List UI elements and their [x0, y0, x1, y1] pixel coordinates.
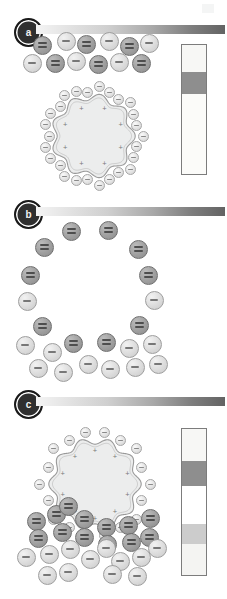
minus-icon: [62, 176, 67, 177]
free-monovalent-anion: [143, 335, 162, 354]
equals-icon: [145, 534, 154, 539]
minus-icon: [97, 185, 102, 186]
minus-icon: [58, 106, 63, 107]
minus-icon: [145, 42, 153, 44]
vesicle-positive-charge: +: [79, 104, 84, 113]
bound-monovalent-anion: [131, 120, 142, 131]
minus-icon: [134, 125, 139, 126]
minus-icon: [43, 574, 51, 576]
minus-icon: [97, 86, 102, 87]
minus-icon: [43, 124, 48, 125]
free-monovalent-anion: [140, 34, 159, 53]
free-monovalent-anion: [59, 563, 78, 582]
panel-a-cationic-vesicle: ++++++++: [38, 84, 148, 188]
free-monovalent-anion: [18, 292, 37, 311]
minus-icon: [134, 146, 139, 147]
minus-icon: [23, 300, 31, 302]
minus-icon: [47, 136, 52, 137]
minus-icon: [85, 179, 90, 180]
minus-icon: [107, 179, 112, 180]
free-monovalent-anion: [128, 567, 147, 586]
equals-icon: [40, 244, 49, 249]
minus-icon: [45, 553, 53, 555]
free-divalent-anion: [33, 317, 52, 336]
minus-icon: [137, 556, 145, 558]
minus-icon: [107, 92, 112, 93]
equals-icon: [69, 340, 78, 345]
panel-a: a ++++++++: [0, 0, 227, 199]
minus-icon: [128, 102, 133, 103]
free-divalent-anion: [33, 36, 52, 55]
equals-icon: [64, 503, 73, 508]
equals-icon: [94, 61, 103, 66]
equals-icon: [38, 323, 47, 328]
bound-monovalent-anion: [55, 160, 66, 171]
free-divalent-anion: [97, 333, 116, 352]
free-divalent-anion: [75, 510, 94, 529]
free-monovalent-anion: [110, 53, 129, 72]
equals-icon: [32, 518, 41, 523]
free-monovalent-anion: [149, 355, 168, 374]
minus-icon: [150, 299, 158, 301]
minus-icon: [106, 368, 114, 370]
minus-icon: [74, 180, 79, 181]
minus-icon: [128, 169, 133, 170]
bound-monovalent-anion: [94, 180, 105, 191]
free-divalent-anion: [62, 222, 81, 241]
free-divalent-anion: [139, 266, 158, 285]
minus-icon: [131, 114, 136, 115]
free-divalent-anion: [132, 54, 151, 73]
bound-monovalent-anion: [82, 87, 93, 98]
equals-icon: [135, 322, 144, 327]
minus-icon: [64, 571, 72, 573]
minus-icon: [62, 40, 70, 42]
equals-icon: [104, 227, 113, 232]
free-divalent-anion: [27, 512, 46, 531]
figure-root: a ++++++++ b ++++++++++ c ++++++++++: [0, 0, 227, 599]
bound-monovalent-anion: [138, 131, 149, 142]
free-monovalent-anion: [148, 539, 167, 558]
free-divalent-anion: [99, 221, 118, 240]
free-monovalent-anion: [17, 548, 36, 567]
vesicle-positive-charge: +: [119, 143, 124, 152]
free-monovalent-anion: [145, 291, 164, 310]
minus-icon: [148, 343, 156, 345]
equals-icon: [102, 524, 111, 529]
free-monovalent-anion: [120, 339, 139, 358]
minus-icon: [116, 172, 121, 173]
free-divalent-anion: [119, 516, 138, 535]
free-monovalent-anion: [79, 355, 98, 374]
equals-icon: [26, 272, 35, 277]
bound-monovalent-anion: [71, 86, 82, 97]
minus-icon: [133, 575, 141, 577]
minus-icon: [86, 558, 94, 560]
free-monovalent-anion: [101, 360, 120, 379]
bound-monovalent-anion: [45, 153, 56, 164]
bound-monovalent-anion: [45, 108, 56, 119]
equals-icon: [58, 529, 67, 534]
minus-icon: [72, 60, 80, 62]
equals-icon: [82, 41, 91, 46]
minus-icon: [108, 573, 116, 575]
free-divalent-anion: [35, 238, 54, 257]
free-divalent-anion: [89, 55, 108, 74]
free-divalent-anion: [46, 54, 65, 73]
minus-icon: [116, 99, 121, 100]
free-monovalent-anion: [29, 359, 48, 378]
bound-monovalent-anion: [44, 131, 55, 142]
minus-icon: [153, 547, 161, 549]
bound-monovalent-anion: [125, 164, 136, 175]
minus-icon: [48, 158, 53, 159]
minus-icon: [66, 548, 74, 550]
panel-b-gradient-rule: [36, 207, 225, 216]
strip-segment-top-light: [182, 45, 206, 72]
free-monovalent-anion: [57, 32, 76, 51]
minus-icon: [102, 547, 110, 549]
vesicle-positive-charge: +: [63, 143, 68, 152]
vesicle-positive-charge: +: [63, 120, 68, 129]
free-divalent-anion: [29, 529, 48, 548]
free-divalent-anion: [21, 266, 40, 285]
free-divalent-anion: [97, 518, 116, 537]
equals-icon: [67, 228, 76, 233]
equals-icon: [102, 339, 111, 344]
